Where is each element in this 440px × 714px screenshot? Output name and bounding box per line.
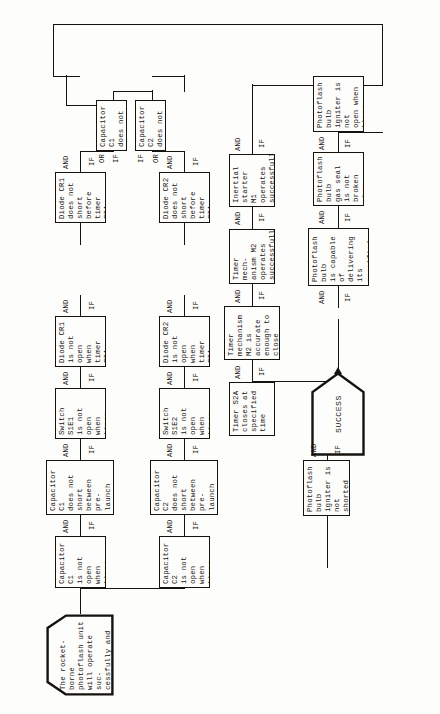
node-cap-c2-open: Capacitor C2 is not open when timer S2A … <box>159 536 210 588</box>
gate-if-diode-cr2-short: IF <box>192 157 200 166</box>
node-cap-c1-open: Capacitor C1 is not open when timer S2A … <box>55 536 106 588</box>
node-switch-s1e2: Switch S1E2 is not open when timer S2A c… <box>159 388 210 439</box>
connector-c2 <box>252 207 253 229</box>
node-bulb-capable: Photoflash bulb is capable of delivering… <box>308 228 369 286</box>
success-label: SUCCESS <box>311 372 365 456</box>
gate-and-cap-c1-short: AND <box>62 443 70 457</box>
gate-if-timer-m2-accurate: IF <box>258 291 266 300</box>
connector-c1 <box>252 84 253 154</box>
connector-b6 <box>184 151 185 173</box>
connector-a4 <box>80 295 81 317</box>
node-timer-m2: Timer mech- anism M2 operates successful… <box>229 229 275 284</box>
gate-if-cap-c2-short: IF <box>192 445 200 454</box>
node-inertial-m1: Inertial starter M1 operates successfull… <box>229 154 275 207</box>
connector-a5 <box>80 223 81 245</box>
connector-longbus-v <box>53 24 383 25</box>
gate-and-switch-s1e2: AND <box>166 371 174 385</box>
gate-if-cap-c1-open: IF <box>88 521 96 530</box>
connector-a3 <box>80 367 81 389</box>
gate-and-bulb-igniter-notshorted: AND <box>310 443 318 457</box>
connector-nest-3v <box>113 91 153 92</box>
gate-and-timer-m2-accurate: AND <box>234 289 242 303</box>
gate-if-diode-cr2-open: IF <box>192 301 200 310</box>
gate-if-bulb-capable: IF <box>344 293 352 302</box>
connector-longbus-top <box>53 24 54 76</box>
root-text: The rocket-borne photoflash unit will op… <box>46 614 114 696</box>
connector-c4 <box>252 360 253 382</box>
connector-a2 <box>80 439 81 461</box>
node-bulb-igniter-notshorted: Photoflash bulb igniter is not shorted w… <box>303 460 350 516</box>
connector-a6 <box>80 151 81 173</box>
connector-d3 <box>338 286 339 308</box>
connector-b3 <box>184 367 185 389</box>
connector-b5 <box>184 223 185 245</box>
connector-c3 <box>252 284 253 306</box>
connector-b4 <box>184 295 185 317</box>
gate-and-timer-s2a: AND <box>234 365 242 379</box>
connector-d1 <box>338 132 339 154</box>
gate-and-bulb-gas-seal: AND <box>318 210 326 224</box>
gate-or-cap-c2-noshort: OR <box>152 154 160 163</box>
gate-if-bulb-igniter-notshorted: IF <box>334 445 342 454</box>
gate-if-timer-s2a: IF <box>258 367 266 376</box>
gate-and-diode-cr2-open: AND <box>166 299 174 313</box>
node-cap-c1-short: Capacitor C1 does not short between pre-… <box>46 460 114 515</box>
gate-and-cap-c2-short: AND <box>166 443 174 457</box>
connector-root-inbound <box>80 588 81 614</box>
diagram-page: SUCCESS The rocket-borne photoflash unit… <box>0 0 440 714</box>
gate-if-inertial-m1: IF <box>258 139 266 148</box>
gate-and-diode-cr2-short: AND <box>166 155 174 169</box>
gate-if-bulb-igniter-notopen: IF <box>344 139 352 148</box>
gate-if-bulb-gas-seal: IF <box>344 213 352 222</box>
gate-if-cap-c1-short: IF <box>88 445 96 454</box>
gate-and-cap-c2-open: AND <box>166 519 174 533</box>
node-cap-c1-noshort: Capacitor C1 does not short <box>96 100 127 151</box>
node-switch-s1e1: Switch S1E1 is not open when timer S1A c… <box>55 388 106 439</box>
connector-nest-4h <box>184 75 185 92</box>
connector-a1 <box>80 515 81 537</box>
diagram-canvas: SUCCESS The rocket-borne photoflash unit… <box>0 0 440 714</box>
gate-if-switch-s1e1: IF <box>88 373 96 382</box>
node-timer-s2a: Timer S2A closes at specified time <box>229 382 275 436</box>
node-timer-m2-accurate: Timer mechanism M2 is accurate enough to… <box>224 306 280 360</box>
gate-or-cap-c1-noshort: OR <box>98 154 106 163</box>
gate-if-cap-c2-noshort: IF <box>137 154 145 163</box>
gate-if-diode-cr1-short: IF <box>88 157 96 166</box>
connector-nest-4v <box>152 76 184 77</box>
gate-if-cap-c2-open: IF <box>192 521 200 530</box>
node-diode-cr2-open: Diode CR2 is not open when timer S2A clo… <box>159 316 210 367</box>
node-cap-c2-short: Capacitor C2 does not short between pre-… <box>150 460 218 515</box>
node-diode-cr2-short: Diode CR2 does not short before timer S2… <box>159 172 210 223</box>
gate-if-diode-cr1-open: IF <box>88 301 96 310</box>
connector-nest-1h <box>66 75 67 106</box>
connector-b2 <box>184 439 185 461</box>
node-diode-cr1-short: Diode CR1 does not short before timer S2… <box>55 172 106 223</box>
connector-root-bus <box>80 588 185 589</box>
node-diode-cr1-open: Diode CR1 is not open when timer S2A clo… <box>55 316 106 367</box>
node-bulb-gas-seal: Photoflash bulb gas seal is not broken w… <box>313 152 364 206</box>
gate-and-bulb-capable: AND <box>318 290 326 304</box>
gate-and-bulb-igniter-notopen: AND <box>318 136 326 150</box>
connector-b1 <box>184 515 185 537</box>
gate-if-switch-s1e2: IF <box>192 373 200 382</box>
connector-longbus-bottom <box>382 25 383 85</box>
gate-and-switch-s1e1: AND <box>62 371 70 385</box>
gate-and-diode-cr1-short: AND <box>62 155 70 169</box>
gate-if-timer-m2: IF <box>258 213 266 222</box>
gate-and-inertial-m1: AND <box>234 137 242 151</box>
node-bulb-igniter-notopen: Photoflash bulb igniter is not open when… <box>313 76 364 132</box>
connector-d2 <box>338 206 339 228</box>
connector-d-success <box>338 319 339 369</box>
node-cap-c2-noshort: Capacitor C2 does not short <box>135 100 166 151</box>
gate-if-cap-c1-noshort: IF <box>112 154 120 163</box>
root-node: The rocket-borne photoflash unit will op… <box>46 614 114 696</box>
success-node: SUCCESS <box>311 372 365 456</box>
gate-and-cap-c1-open: AND <box>62 519 70 533</box>
gate-and-diode-cr1-open: AND <box>62 299 70 313</box>
gate-and-timer-m2: AND <box>234 211 242 225</box>
